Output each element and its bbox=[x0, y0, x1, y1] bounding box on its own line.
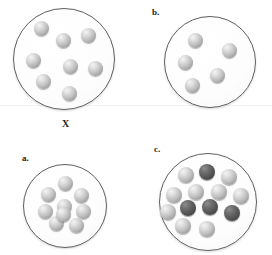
sphere-c-9-dark bbox=[202, 199, 218, 215]
sphere-target-7-light bbox=[36, 74, 51, 89]
sphere-a-6-light bbox=[76, 204, 91, 219]
panel-label-target: X bbox=[62, 119, 69, 129]
sphere-a-8-light bbox=[69, 218, 84, 233]
scan-seam-line bbox=[0, 105, 272, 106]
panel-label-c: c. bbox=[154, 145, 160, 154]
sphere-target-5-light bbox=[63, 59, 78, 74]
sphere-a-5-light bbox=[38, 204, 53, 219]
sphere-target-4-light bbox=[26, 53, 41, 68]
sphere-a-9-light bbox=[56, 207, 71, 222]
sphere-c-6-light bbox=[166, 187, 182, 203]
sphere-target-1-light bbox=[34, 21, 49, 36]
panel-label-b: b. bbox=[152, 8, 159, 17]
sphere-c-12-light bbox=[199, 221, 215, 237]
sphere-c-5-light bbox=[211, 184, 227, 200]
figure-canvas: Xb.a.c. bbox=[0, 0, 272, 255]
sphere-c-7-light bbox=[233, 188, 249, 204]
sphere-c-10-dark bbox=[224, 205, 240, 221]
sphere-b-1-light bbox=[188, 33, 203, 48]
sphere-target-3-light bbox=[81, 28, 96, 43]
sphere-c-3-light bbox=[221, 169, 237, 185]
sphere-c-11-light bbox=[175, 218, 191, 234]
sphere-target-2-light bbox=[56, 33, 71, 48]
sphere-c-2-dark bbox=[199, 164, 215, 180]
sphere-c-1-light bbox=[178, 167, 194, 183]
sphere-c-8-dark bbox=[180, 200, 196, 216]
panel-label-a: a. bbox=[22, 154, 29, 163]
sphere-b-5-light bbox=[185, 78, 200, 93]
sphere-a-2-light bbox=[41, 187, 56, 202]
sphere-c-4-light bbox=[188, 184, 204, 200]
sphere-b-2-light bbox=[222, 43, 237, 58]
sphere-target-6-light bbox=[88, 61, 103, 76]
sphere-target-8-light bbox=[62, 86, 77, 101]
sphere-c-13-light bbox=[160, 204, 176, 220]
sphere-a-3-light bbox=[74, 188, 89, 203]
sphere-b-3-light bbox=[178, 55, 193, 70]
sphere-a-1-light bbox=[58, 176, 73, 191]
sphere-b-4-light bbox=[210, 68, 225, 83]
